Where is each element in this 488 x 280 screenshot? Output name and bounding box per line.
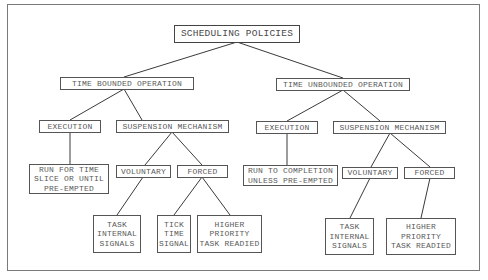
- node-label: TIME BOUNDED OPERATION: [72, 79, 182, 89]
- node-line: TASK: [339, 222, 359, 232]
- node-line: TASK: [107, 220, 127, 230]
- node-label: VOLUNTARY: [121, 167, 166, 177]
- node-line: SIGNAL: [159, 239, 189, 249]
- node-scheduling-policies: SCHEDULING POLICIES: [174, 25, 300, 43]
- node-tu-execution-description: RUN TO COMPLETION UNLESS PRE-EMPTED: [243, 165, 338, 186]
- node-line: SIGNALS: [332, 241, 367, 251]
- node-line: TASK READIED: [391, 241, 451, 251]
- node-line: HIGHER: [406, 222, 436, 232]
- node-tu-voluntary: VOLUNTARY: [342, 167, 398, 179]
- node-line: RUN FOR TIME: [39, 165, 99, 175]
- node-line: UNLESS PRE-EMPTED: [248, 176, 333, 186]
- node-line: HIGHER: [214, 220, 244, 230]
- node-line: TASK READIED: [199, 239, 259, 249]
- node-tu-higher-priority-task-readied: HIGHER PRIORITY TASK READIED: [386, 218, 456, 255]
- node-tb-forced: FORCED: [177, 165, 228, 178]
- node-tb-tick-time-signal: TICK TIME SIGNAL: [157, 215, 191, 253]
- node-line: TIME: [164, 229, 184, 239]
- node-tu-task-internal-signals: TASK INTERNAL SIGNALS: [325, 218, 374, 255]
- node-line: RUN TO COMPLETION: [248, 166, 333, 176]
- node-tu-execution: EXECUTION: [256, 121, 318, 134]
- node-time-bounded-operation: TIME BOUNDED OPERATION: [60, 77, 194, 90]
- node-tb-execution: EXECUTION: [39, 120, 101, 133]
- node-label: SUSPENSION MECHANISM: [339, 123, 439, 133]
- node-tb-suspension-mechanism: SUSPENSION MECHANISM: [116, 120, 229, 133]
- node-line: INTERNAL: [97, 229, 137, 239]
- node-line: PRE-EMPTED: [44, 184, 94, 194]
- node-line: PRIORITY: [401, 232, 441, 242]
- node-line: PRIORITY: [209, 229, 249, 239]
- node-tb-higher-priority-task-readied: HIGHER PRIORITY TASK READIED: [197, 215, 262, 253]
- node-line: INTERNAL: [329, 232, 369, 242]
- node-label: FORCED: [187, 167, 217, 177]
- node-label: EXECUTION: [264, 123, 309, 133]
- node-tb-task-internal-signals: TASK INTERNAL SIGNALS: [93, 215, 141, 253]
- node-line: TICK: [164, 220, 184, 230]
- node-line: SLICE OR UNTIL: [34, 174, 104, 184]
- node-label: FORCED: [414, 168, 444, 178]
- node-tb-voluntary: VOLUNTARY: [116, 165, 171, 178]
- node-tb-execution-description: RUN FOR TIME SLICE OR UNTIL PRE-EMPTED: [29, 164, 109, 194]
- node-label: VOLUNTARY: [347, 168, 392, 178]
- node-label: EXECUTION: [47, 122, 92, 132]
- node-tu-forced: FORCED: [404, 167, 455, 179]
- node-time-unbounded-operation: TIME UNBOUNDED OPERATION: [276, 78, 410, 91]
- node-tu-suspension-mechanism: SUSPENSION MECHANISM: [333, 121, 446, 134]
- node-label: SCHEDULING POLICIES: [181, 29, 293, 39]
- node-label: SUSPENSION MECHANISM: [122, 122, 222, 132]
- node-line: SIGNALS: [99, 239, 134, 249]
- node-label: TIME UNBOUNDED OPERATION: [283, 80, 403, 90]
